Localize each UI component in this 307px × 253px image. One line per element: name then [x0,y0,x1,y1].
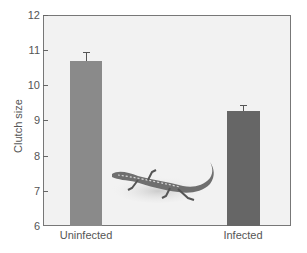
error-cap-uninfected [83,52,90,53]
y-tick-11 [43,50,48,51]
lizard-illustration-icon [108,160,223,205]
y-tick-label: 6 [14,220,40,232]
bar-uninfected [70,61,102,226]
x-label-uninfected: Uninfected [46,229,126,241]
y-tick-10 [43,85,48,86]
y-axis-title: Clutch size [12,96,24,156]
error-cap-infected [240,105,247,106]
y-tick-7 [43,191,48,192]
bar-infected [227,111,260,226]
y-tick-label: 7 [14,185,40,197]
y-tick-12 [43,15,48,16]
error-bar-uninfected [86,52,87,61]
y-tick-label: 10 [14,79,40,91]
y-tick-9 [43,120,48,121]
y-tick-label: 12 [14,9,40,21]
x-label-infected: Infected [203,229,283,241]
y-tick-label: 11 [14,44,40,56]
y-tick-8 [43,156,48,157]
